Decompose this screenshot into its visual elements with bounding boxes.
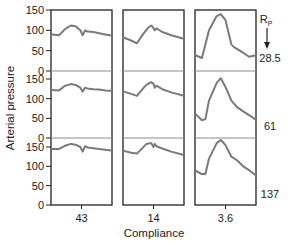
- y-tick-label: 0: [38, 199, 44, 211]
- y-tick-label: 150: [26, 73, 44, 85]
- x-tick-label: 43: [75, 212, 87, 224]
- panel-frame-2: [195, 10, 256, 205]
- y-tick-label: 150: [26, 141, 44, 153]
- chart-panels: [51, 10, 256, 205]
- x-tick-label: 3.6: [218, 212, 233, 224]
- y-tick-label: 150: [26, 4, 44, 16]
- panel-frame-0: [51, 10, 112, 205]
- rp-value-label: 28.5: [259, 52, 280, 64]
- pressure-waveform: [124, 143, 183, 155]
- pressure-waveform: [196, 140, 255, 175]
- pressure-waveform: [52, 144, 111, 152]
- y-tick-label: 100: [26, 160, 44, 172]
- y-axis-title: Arterial pressure: [4, 66, 16, 150]
- y-tick-label: 50: [32, 45, 44, 57]
- rp-legend: RP 28.561137: [259, 13, 280, 200]
- y-tick-label: 100: [26, 93, 44, 105]
- pressure-waveform: [196, 14, 255, 58]
- y-axis: 050100150050100150050100150: [26, 4, 51, 211]
- pressure-waveform: [196, 78, 255, 120]
- pressure-waveform: [52, 84, 111, 92]
- panel-frame-1: [123, 10, 184, 205]
- x-axis-title: Compliance: [124, 227, 185, 239]
- pressure-waveform: [124, 26, 183, 44]
- y-tick-label: 50: [32, 112, 44, 124]
- rp-legend-header: RP: [260, 13, 273, 27]
- rp-value-label: 61: [264, 120, 276, 132]
- x-axis: 43143.6: [75, 205, 233, 224]
- rp-legend-header-sub: P: [268, 20, 273, 27]
- arterial-pressure-grid-chart: 050100150050100150050100150 43143.6 Arte…: [0, 0, 294, 245]
- y-tick-label: 50: [32, 180, 44, 192]
- pressure-waveform: [124, 82, 183, 96]
- rp-value-label: 137: [261, 188, 279, 200]
- arrow-down-head-icon: [264, 42, 270, 49]
- rp-legend-header-main: R: [260, 13, 268, 25]
- pressure-waveform: [52, 26, 111, 36]
- y-tick-label: 100: [26, 24, 44, 36]
- x-tick-label: 14: [147, 212, 159, 224]
